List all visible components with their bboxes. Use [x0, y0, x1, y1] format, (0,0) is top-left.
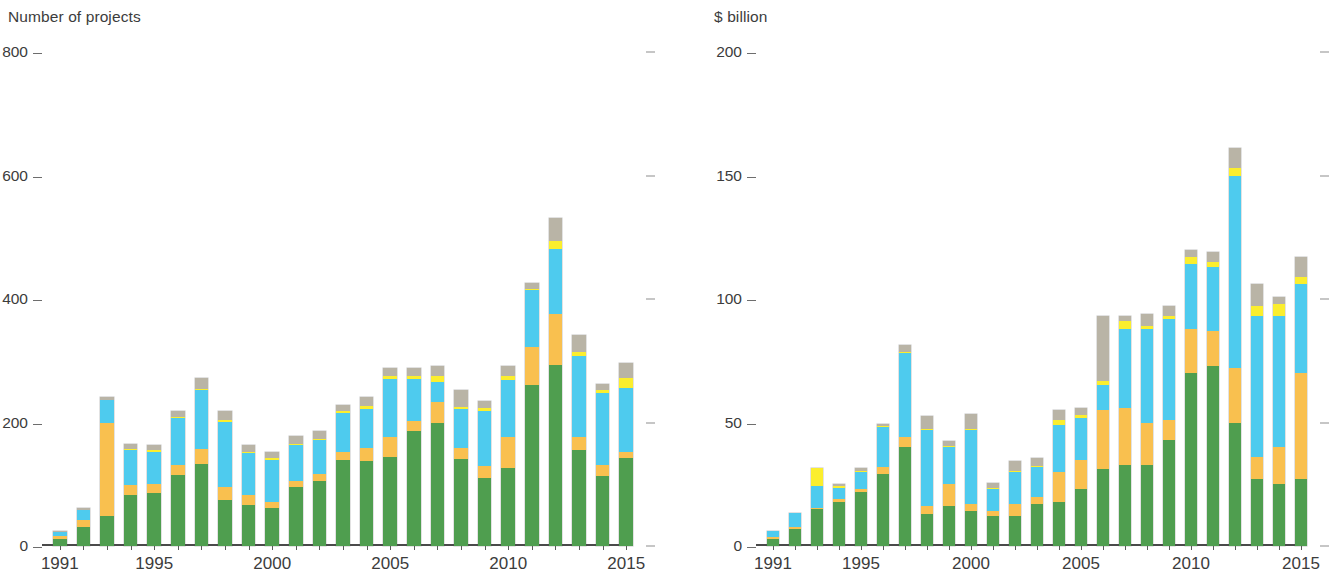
bar-1994	[833, 484, 846, 546]
bar-segment-orange	[1207, 331, 1220, 366]
bar-segment-blue	[549, 249, 563, 314]
x-axis-tick-mark	[178, 546, 179, 550]
x-axis-tick-mark	[508, 546, 509, 550]
bar-segment-blue	[833, 488, 846, 499]
plot-area-number-of-projects: 199119952000200520102015 0200400600800	[48, 52, 638, 546]
x-axis-tick-label-2010: 2010	[489, 554, 527, 574]
bar-segment-grey	[1009, 461, 1022, 471]
bar-1995	[855, 468, 868, 546]
bar-segment-green	[360, 461, 374, 546]
bar-segment-grey	[1163, 306, 1176, 316]
bar-1996	[171, 411, 185, 546]
bar-segment-orange	[943, 484, 956, 506]
bar-segment-orange	[1229, 368, 1242, 422]
x-axis-tick-mark	[1169, 546, 1170, 550]
bar-segment-green	[1009, 516, 1022, 546]
bar-segment-blue	[1075, 418, 1088, 460]
bar-segment-orange	[289, 481, 303, 488]
bar-segment-blue	[265, 460, 279, 502]
bar-segment-green	[383, 457, 397, 546]
bar-1996	[877, 424, 890, 546]
bar-2015	[619, 363, 633, 546]
bar-segment-green	[1163, 440, 1176, 546]
x-axis-tick-mark	[83, 546, 84, 550]
bar-1992	[77, 508, 91, 546]
bar-segment-orange	[124, 485, 138, 495]
x-axis-tick-label-2015: 2015	[607, 554, 645, 574]
bar-segment-orange	[100, 423, 114, 517]
bar-segment-green	[525, 385, 539, 546]
bar-segment-grey	[1273, 297, 1286, 304]
bar-2014	[596, 384, 610, 546]
x-axis-tick-mark	[971, 546, 972, 550]
x-axis-tick-mark	[437, 546, 438, 550]
bar-segment-green	[407, 431, 421, 546]
bar-segment-green	[100, 516, 114, 546]
bar-segment-grey	[1141, 314, 1154, 326]
bar-segment-orange	[242, 495, 256, 505]
y-axis-tick-mark-right	[646, 175, 655, 176]
bar-segment-grey	[1295, 257, 1308, 277]
bar-segment-blue	[195, 390, 209, 449]
bar-segment-green	[501, 468, 515, 546]
x-axis-tick-mark	[532, 546, 533, 550]
bar-segment-green	[218, 500, 232, 546]
bar-segment-orange	[877, 467, 890, 474]
bar-segment-blue	[171, 418, 185, 464]
bar-segment-grey	[619, 363, 633, 378]
bar-segment-blue	[1053, 425, 1066, 472]
x-axis-tick-mark	[1081, 546, 1082, 550]
bar-segment-grey	[1185, 250, 1198, 257]
x-axis-tick-mark	[367, 546, 368, 550]
bar-segment-orange	[1295, 373, 1308, 479]
bar-segment-grey	[899, 345, 912, 352]
bar-1998	[921, 416, 934, 546]
bar-segment-blue	[336, 413, 350, 451]
bar-segment-grey	[1207, 252, 1220, 262]
bar-segment-blue	[1273, 316, 1286, 447]
x-axis-tick-mark	[390, 546, 391, 550]
bar-segment-green	[965, 511, 978, 546]
x-axis-tick-mark	[319, 546, 320, 550]
bar-segment-blue	[1295, 284, 1308, 373]
bar-segment-blue	[899, 353, 912, 437]
bar-segment-blue	[877, 427, 890, 467]
bar-segment-grey	[195, 378, 209, 388]
bar-segment-grey	[501, 366, 515, 375]
bar-segment-green	[811, 509, 824, 546]
bar-segment-orange	[1141, 423, 1154, 465]
x-axis-tick-mark	[249, 546, 250, 550]
bar-segment-orange	[478, 466, 492, 478]
x-axis-tick-mark	[201, 546, 202, 550]
bar-segment-grey	[1075, 408, 1088, 415]
x-axis-tick-mark	[154, 546, 155, 550]
x-axis-tick-mark	[485, 546, 486, 550]
x-axis-tick-mark	[1147, 546, 1148, 550]
bar-segment-green	[1075, 489, 1088, 546]
bar-segment-orange	[1009, 504, 1022, 516]
bar-segment-green	[265, 508, 279, 546]
x-axis-tick-mark	[1279, 546, 1280, 550]
bar-segment-green	[1229, 423, 1242, 547]
x-axis-tick-mark	[993, 546, 994, 550]
x-axis-tick-mark	[1125, 546, 1126, 550]
bar-segment-blue	[1251, 316, 1264, 457]
bar-2000	[965, 414, 978, 546]
y-axis-tick-mark-right	[646, 52, 655, 53]
y-axis-tick-mark-right	[1320, 299, 1329, 300]
bar-segment-green	[1273, 484, 1286, 546]
bar-2009	[478, 401, 492, 546]
bar-segment-orange	[1031, 497, 1044, 504]
bar-segment-yellow	[1229, 168, 1242, 175]
bar-1994	[124, 444, 138, 546]
bar-segment-green	[943, 506, 956, 546]
x-axis-tick-mark	[905, 546, 906, 550]
x-axis-tick-mark	[839, 546, 840, 550]
bar-segment-green	[124, 495, 138, 546]
bar-2001	[987, 483, 1000, 546]
y-axis-tick-label: 600	[2, 167, 48, 185]
bar-2012	[549, 218, 563, 546]
x-axis-tick-mark	[1191, 546, 1192, 550]
bar-segment-orange	[147, 484, 161, 493]
bar-segment-yellow	[1295, 277, 1308, 284]
